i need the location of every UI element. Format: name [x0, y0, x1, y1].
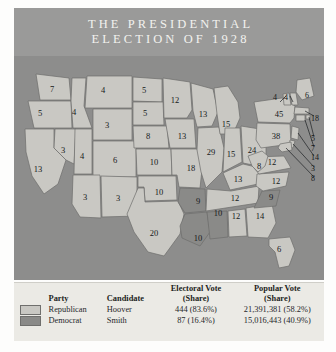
state-NE	[133, 126, 169, 148]
title-line-1: THE PRESIDENTIAL	[85, 17, 253, 32]
us-electoral-map: 7513344346335581010201213189101329151524…	[14, 56, 324, 280]
state-GA	[246, 204, 276, 238]
state-votes-WY: 3	[105, 121, 109, 130]
cell-party: Republican	[49, 304, 107, 315]
state-votes-NM: 3	[116, 194, 120, 203]
state-votes-WV: 8	[257, 162, 261, 171]
state-votes-ID: 4	[72, 108, 76, 117]
state-OR	[28, 101, 72, 128]
header-popular-vote: Popular Vote (Share)	[231, 283, 324, 304]
state-votes-ME: 6	[305, 92, 309, 100]
state-NJ	[291, 126, 299, 140]
cell-electoral-vote: 87 (16.4%)	[161, 315, 230, 326]
state-SD	[133, 102, 164, 125]
cell-party: Democrat	[49, 315, 107, 326]
state-votes-CA: 13	[34, 165, 43, 174]
header-popular-sub: (Share)	[231, 294, 324, 304]
state-votes-OR: 5	[38, 109, 42, 118]
cell-popular-vote: 21,391,381 (58.2%)	[231, 304, 324, 315]
header-electoral-vote: Electoral Vote (Share)	[161, 283, 230, 304]
state-votes-AR: 9	[196, 197, 200, 206]
state-ND	[133, 77, 162, 102]
table-header-row: Party Candidate Electoral Vote (Share) P…	[14, 283, 324, 304]
state-votes-MD: 8	[311, 175, 315, 183]
header-electoral-main: Electoral Vote	[161, 284, 230, 294]
map-canvas: 7513344346335581010201213189101329151524…	[14, 56, 324, 280]
cell-candidate: Smith	[107, 315, 162, 326]
state-votes-TN: 12	[231, 194, 240, 203]
state-votes-NH: 4	[284, 94, 288, 102]
state-votes-MN: 12	[171, 96, 180, 105]
state-MT	[85, 76, 132, 108]
state-votes-CO: 6	[113, 156, 117, 165]
state-votes-KY: 13	[234, 175, 243, 184]
header-electoral-sub: (Share)	[161, 294, 230, 304]
state-votes-AZ: 3	[83, 193, 87, 202]
table-body: RepublicanHoover444 (83.6%)21,391,381 (5…	[14, 304, 324, 326]
state-votes-PA: 38	[272, 132, 281, 141]
color-swatch	[20, 305, 41, 315]
state-votes-MT: 4	[101, 86, 105, 95]
state-votes-OK: 10	[155, 188, 164, 197]
state-votes-IL: 29	[207, 148, 216, 157]
state-AR	[178, 188, 206, 213]
state-votes-UT: 4	[80, 152, 84, 161]
title-line-2: ELECTION OF 1928	[88, 32, 249, 47]
state-CT	[296, 115, 305, 121]
state-votes-MA: 18	[311, 115, 319, 123]
state-votes-KS: 10	[150, 158, 159, 167]
header-popular-main: Popular Vote	[231, 284, 324, 294]
legend-swatch-republican	[14, 304, 49, 315]
results-legend: Party Candidate Electoral Vote (Share) P…	[14, 282, 324, 341]
state-votes-IA: 13	[178, 132, 187, 141]
state-votes-TX: 20	[150, 229, 159, 238]
state-MA	[294, 107, 309, 114]
state-votes-OH: 24	[248, 146, 257, 155]
state-votes-NY: 45	[275, 110, 284, 119]
table-row: RepublicanHoover444 (83.6%)21,391,381 (5…	[14, 304, 324, 315]
state-votes-WA: 7	[50, 85, 54, 94]
state-votes-MS: 10	[214, 209, 223, 218]
state-votes-SC: 9	[269, 193, 273, 202]
state-votes-VT: 4	[273, 94, 277, 102]
state-votes-MI: 15	[222, 120, 231, 129]
header-candidate: Candidate	[107, 283, 162, 304]
state-votes-ND: 5	[142, 86, 146, 95]
results-table: Party Candidate Electoral Vote (Share) P…	[14, 283, 324, 326]
state-votes-AL: 12	[232, 212, 241, 221]
color-swatch	[20, 316, 41, 326]
state-votes-IN: 15	[227, 150, 236, 159]
state-votes-CT: 7	[311, 145, 315, 153]
state-votes-NJ: 14	[311, 154, 319, 162]
state-FL	[269, 237, 295, 268]
state-votes-NC: 12	[272, 177, 281, 186]
state-votes-NE: 8	[146, 132, 150, 141]
cell-electoral-vote: 444 (83.6%)	[161, 304, 230, 315]
state-votes-MO: 18	[187, 164, 196, 173]
state-votes-NV: 3	[61, 146, 65, 155]
state-WY	[93, 109, 132, 140]
state-votes-LA: 10	[194, 234, 203, 243]
election-map-figure: THE PRESIDENTIAL ELECTION OF 1928	[0, 0, 336, 352]
cell-candidate: Hoover	[107, 304, 162, 315]
state-votes-WI: 13	[199, 110, 208, 119]
header-party: Party	[49, 283, 107, 304]
state-votes-FL: 6	[277, 245, 281, 254]
cell-popular-vote: 15,016,443 (40.9%)	[231, 315, 324, 326]
state-votes-SD: 5	[143, 109, 147, 118]
state-votes-DE: 3	[311, 165, 315, 173]
header-swatch	[14, 283, 49, 304]
state-votes-VA: 12	[268, 158, 277, 167]
figure-title-band: THE PRESIDENTIAL ELECTION OF 1928	[14, 8, 324, 56]
table-row: DemocratSmith87 (16.4%)15,016,443 (40.9%…	[14, 315, 324, 326]
legend-swatch-democrat	[14, 315, 49, 326]
state-votes-GA: 14	[256, 212, 265, 221]
state-votes-RI: 5	[311, 135, 315, 143]
